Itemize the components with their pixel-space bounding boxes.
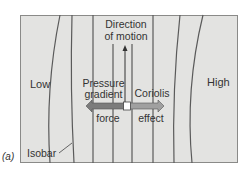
panel-label: (a) [2, 151, 14, 162]
coriolis-label-line2: effect [135, 113, 167, 124]
parcel-box [124, 102, 131, 110]
isobar-line [190, 15, 203, 163]
isobar-line [49, 15, 60, 163]
pressure-gradient-arrow-icon [86, 100, 124, 112]
coriolis-label-line1: Coriolis [132, 88, 172, 99]
isobar-label: Isobar [27, 148, 56, 159]
pressure-label-line2: gradient [81, 89, 126, 100]
high-label: High [207, 77, 230, 88]
pressure-label-line3: force [93, 113, 123, 124]
isobar-line [71, 15, 74, 163]
direction-label-line2: of motion [101, 31, 151, 42]
coriolis-arrow-icon [130, 100, 164, 112]
isobar-line [174, 15, 180, 163]
direction-label-line1: Direction [103, 19, 149, 30]
low-label: Low [30, 79, 50, 90]
motion-arrowhead-icon [123, 45, 128, 51]
isobar-leader-line [59, 143, 72, 153]
